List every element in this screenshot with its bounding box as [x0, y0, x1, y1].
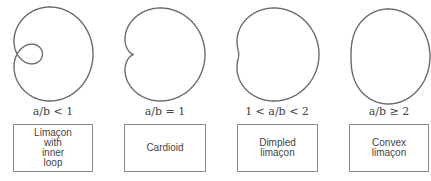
limacon-curve-1 — [14, 7, 93, 101]
limacon-curve-4 — [351, 9, 430, 104]
condition-label-4: a/b ≥ 2 — [334, 105, 431, 118]
name-box-cardioid: Cardioid — [124, 124, 206, 172]
limacon-curve-3 — [237, 8, 319, 101]
name-box-dimpled: Dimpled limaçon — [237, 124, 318, 172]
condition-label-1: a/b < 1 — [0, 105, 108, 118]
condition-label-2: a/b = 1 — [110, 105, 220, 118]
name-box-inner-loop: Limaçon with inner loop — [13, 124, 93, 172]
condition-label-3: 1 < a/b < 2 — [222, 105, 332, 118]
limacon-curve-2 — [125, 8, 205, 101]
name-box-convex: Convex limaçon — [349, 124, 429, 172]
